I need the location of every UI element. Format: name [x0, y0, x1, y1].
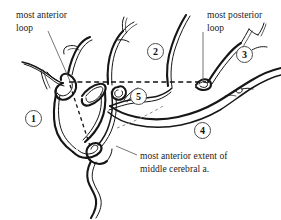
marker-1: 1 [25, 110, 42, 127]
ascending-vessel-two [108, 17, 137, 85]
marker-5: 5 [130, 88, 147, 105]
marker-2: 2 [147, 43, 164, 60]
label-most-anterior-loop-line1: most anterior [16, 9, 67, 22]
anatomical-figure: most anterior loop most posterior loop m… [0, 0, 281, 220]
label-most-anterior-loop: most anterior loop [16, 9, 67, 34]
label-most-anterior-loop-line2: loop [16, 22, 67, 35]
central-loop-cluster [82, 84, 126, 146]
label-most-posterior-loop-line2: loop [207, 22, 262, 35]
label-most-posterior-loop-line1: most posterior [207, 9, 262, 22]
internal-carotid-vessel [73, 143, 112, 218]
label-mca-anterior-extent: most anterior extent of middle cerebral … [140, 150, 227, 175]
label-most-posterior-loop: most posterior loop [207, 9, 262, 34]
marker-3: 3 [236, 46, 253, 63]
label-mca-anterior-extent-line1: most anterior extent of [140, 150, 227, 163]
leader-anterior-loop [48, 31, 70, 81]
anterior-loop-vessel [54, 74, 76, 152]
label-mca-anterior-extent-line2: middle cerebral a. [140, 163, 227, 176]
marker-4: 4 [194, 122, 211, 139]
upper-left-ascending-vessel [64, 37, 92, 75]
leader-mca-extent [116, 146, 137, 155]
ascending-vessel-center [167, 15, 190, 87]
